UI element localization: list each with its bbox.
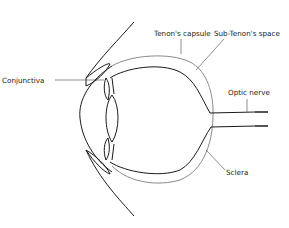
sclera-lower-line <box>110 126 268 174</box>
lens <box>106 95 118 142</box>
label-sclera: Sclera <box>226 168 248 177</box>
cornea <box>80 66 112 172</box>
label-sub-tenons-space: Sub-Tenon's space <box>214 29 280 38</box>
ciliary-body-upper <box>104 78 114 100</box>
lower-eyelid <box>86 150 134 216</box>
label-tenons-capsule: Tenon's capsule <box>153 29 211 38</box>
label-optic-nerve: Optic nerve <box>228 88 270 97</box>
tenons-capsule-line <box>112 56 213 183</box>
label-conjunctiva: Conjunctiva <box>2 76 45 85</box>
eye-diagram: Conjunctiva Tenon's capsule Sub-Tenon's … <box>0 0 289 228</box>
leader-sclera <box>206 150 225 170</box>
optic-nerve <box>255 112 268 126</box>
leader-sub-tenons-space <box>196 39 224 70</box>
upper-eyelid <box>86 22 134 86</box>
